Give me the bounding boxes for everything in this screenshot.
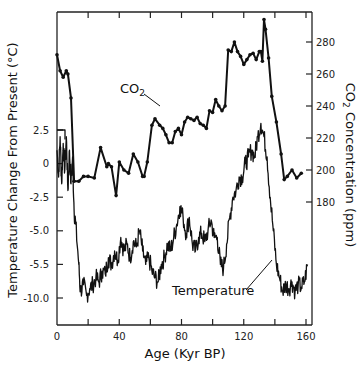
left-tick-label: 0 <box>43 158 49 169</box>
co2-data-point <box>282 178 286 182</box>
temperature-series-line <box>57 123 308 302</box>
right-axis-ticks: 280260240220200180 <box>306 37 335 208</box>
co2-data-point <box>205 127 209 131</box>
co2-data-point <box>295 176 299 180</box>
right-tick-label: 200 <box>316 165 335 176</box>
co2-data-point <box>114 194 118 198</box>
left-tick-label: 2.5 <box>33 125 49 136</box>
co2-data-point <box>65 69 69 73</box>
co2-data-point <box>267 56 271 60</box>
temperature-annotation: Temperature <box>171 283 254 298</box>
x-tick-label: 120 <box>234 331 253 342</box>
co2-data-point <box>217 104 221 108</box>
co2-data-point <box>142 175 146 179</box>
co2-data-point <box>195 115 199 119</box>
co2-data-point <box>279 152 283 156</box>
co2-data-point <box>202 123 206 127</box>
co2-data-point <box>220 109 224 113</box>
left-tick-label: -5.0 <box>29 225 49 236</box>
co2-data-point <box>150 123 154 127</box>
left-tick-label: -5.5 <box>29 259 49 270</box>
co2-data-point <box>55 53 59 57</box>
co2-data-point <box>86 175 90 179</box>
chart: 04080120160 2.50-2.5-5.0-5.5-10.0 280260… <box>0 0 364 365</box>
co2-data-point <box>254 58 258 62</box>
co2-data-point <box>153 117 157 121</box>
right-axis-title: CO2 Concentration (ppm) <box>341 83 358 248</box>
co2-data-point <box>211 111 215 115</box>
co2-annotation: CO2 <box>120 81 145 98</box>
co2-data-point <box>236 50 240 54</box>
co2-data-point <box>290 168 294 172</box>
co2-data-point <box>158 123 162 127</box>
co2-data-point <box>177 127 181 131</box>
co2-data-point <box>198 122 202 126</box>
right-axis-title-co: CO <box>343 83 358 102</box>
co2-data-point <box>99 146 103 150</box>
co2-data-point <box>270 95 274 99</box>
co2-data-point <box>300 171 304 175</box>
co2-data-point <box>174 130 178 134</box>
co2-data-point <box>69 96 73 100</box>
right-tick-label: 240 <box>316 101 335 112</box>
co2-data-point <box>58 69 62 73</box>
right-tick-label: 260 <box>316 69 335 80</box>
co2-data-point <box>245 58 249 62</box>
co2-data-point <box>110 165 114 169</box>
left-tick-label: -10.0 <box>23 293 49 304</box>
co2-data-point <box>61 75 65 79</box>
right-tick-label: 280 <box>316 37 335 48</box>
co2-annotation-co: CO <box>120 81 139 96</box>
co2-data-point <box>183 120 187 124</box>
co2-data-point <box>192 119 196 123</box>
co2-data-point <box>261 59 265 63</box>
co2-data-point <box>286 175 290 179</box>
left-axis-title: Temperature Change From Present (°C) <box>5 42 20 298</box>
left-tick-label: -2.5 <box>29 192 49 203</box>
x-tick-label: 0 <box>54 331 60 342</box>
co2-data-point <box>122 168 126 172</box>
co2-data-point <box>107 162 111 166</box>
co2-data-point <box>275 120 279 124</box>
co2-data-point <box>259 50 263 54</box>
co2-data-point <box>167 141 171 145</box>
co2-data-point <box>226 48 230 52</box>
co2-data-point <box>161 127 165 131</box>
co2-data-point <box>248 53 252 57</box>
co2-data-point <box>127 171 131 175</box>
co2-data-point <box>146 160 150 164</box>
co2-data-point <box>251 51 255 55</box>
x-tick-label: 160 <box>296 331 315 342</box>
co2-data-point <box>105 165 109 169</box>
co2-data-point <box>77 179 81 183</box>
co2-data-point <box>170 141 174 145</box>
co2-data-point <box>262 18 266 22</box>
co2-data-point <box>230 50 234 54</box>
co2-data-point <box>239 55 243 59</box>
co2-leader-line <box>144 94 160 106</box>
right-axis-title-rest: Concentration (ppm) <box>343 108 358 248</box>
co2-data-point <box>66 72 70 76</box>
series-group <box>55 18 307 302</box>
co2-data-point <box>180 133 184 137</box>
co2-annotation-sub: 2 <box>139 88 145 98</box>
co2-data-point <box>214 98 218 102</box>
x-axis-title: Age (Kyr BP) <box>145 346 226 361</box>
co2-series-line <box>57 20 301 196</box>
right-tick-label: 180 <box>316 197 335 208</box>
co2-data-point <box>93 176 97 180</box>
co2-data-point <box>164 133 168 137</box>
x-tick-label: 80 <box>175 331 188 342</box>
x-tick-label: 40 <box>113 331 126 342</box>
co2-data-point <box>264 27 268 31</box>
temperature-start-marker <box>57 130 65 139</box>
co2-data-point <box>208 109 212 113</box>
co2-data-point <box>186 115 190 119</box>
co2-data-point <box>223 104 227 108</box>
co2-data-point <box>233 40 237 44</box>
co2-data-point <box>82 175 86 179</box>
co2-data-point <box>136 160 140 164</box>
co2-data-point <box>189 117 193 121</box>
co2-data-point <box>118 160 122 164</box>
co2-data-point <box>242 63 246 67</box>
